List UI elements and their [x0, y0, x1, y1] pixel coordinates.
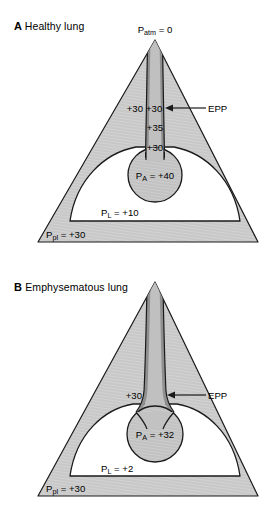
label-airway-outside-a: +30: [127, 103, 143, 114]
figure-equal-pressure-point: A Healthy lung: [0, 0, 272, 515]
label-p-atm-a: Patm = 0: [138, 24, 173, 37]
panel-a-diagram: Patm = 0 EPP +30 +30 +35 +30 PA = +40 PL…: [0, 0, 272, 262]
panel-emphysematous-lung: B Emphysematous lung: [0, 262, 272, 515]
panel-healthy-lung: A Healthy lung: [0, 0, 272, 262]
label-epp-a: EPP: [208, 103, 227, 114]
label-airway-outside-b: +30: [126, 390, 142, 401]
label-airway-lower-a: +30: [147, 142, 163, 153]
panel-b-diagram: EPP +30 PA = +32 PL = +2 Ppl = +30: [0, 262, 272, 515]
label-airway-epp-a: +30: [146, 103, 162, 114]
label-epp-b: EPP: [208, 390, 227, 401]
label-airway-mid-a: +35: [147, 122, 163, 133]
airway-a: [146, 40, 165, 152]
